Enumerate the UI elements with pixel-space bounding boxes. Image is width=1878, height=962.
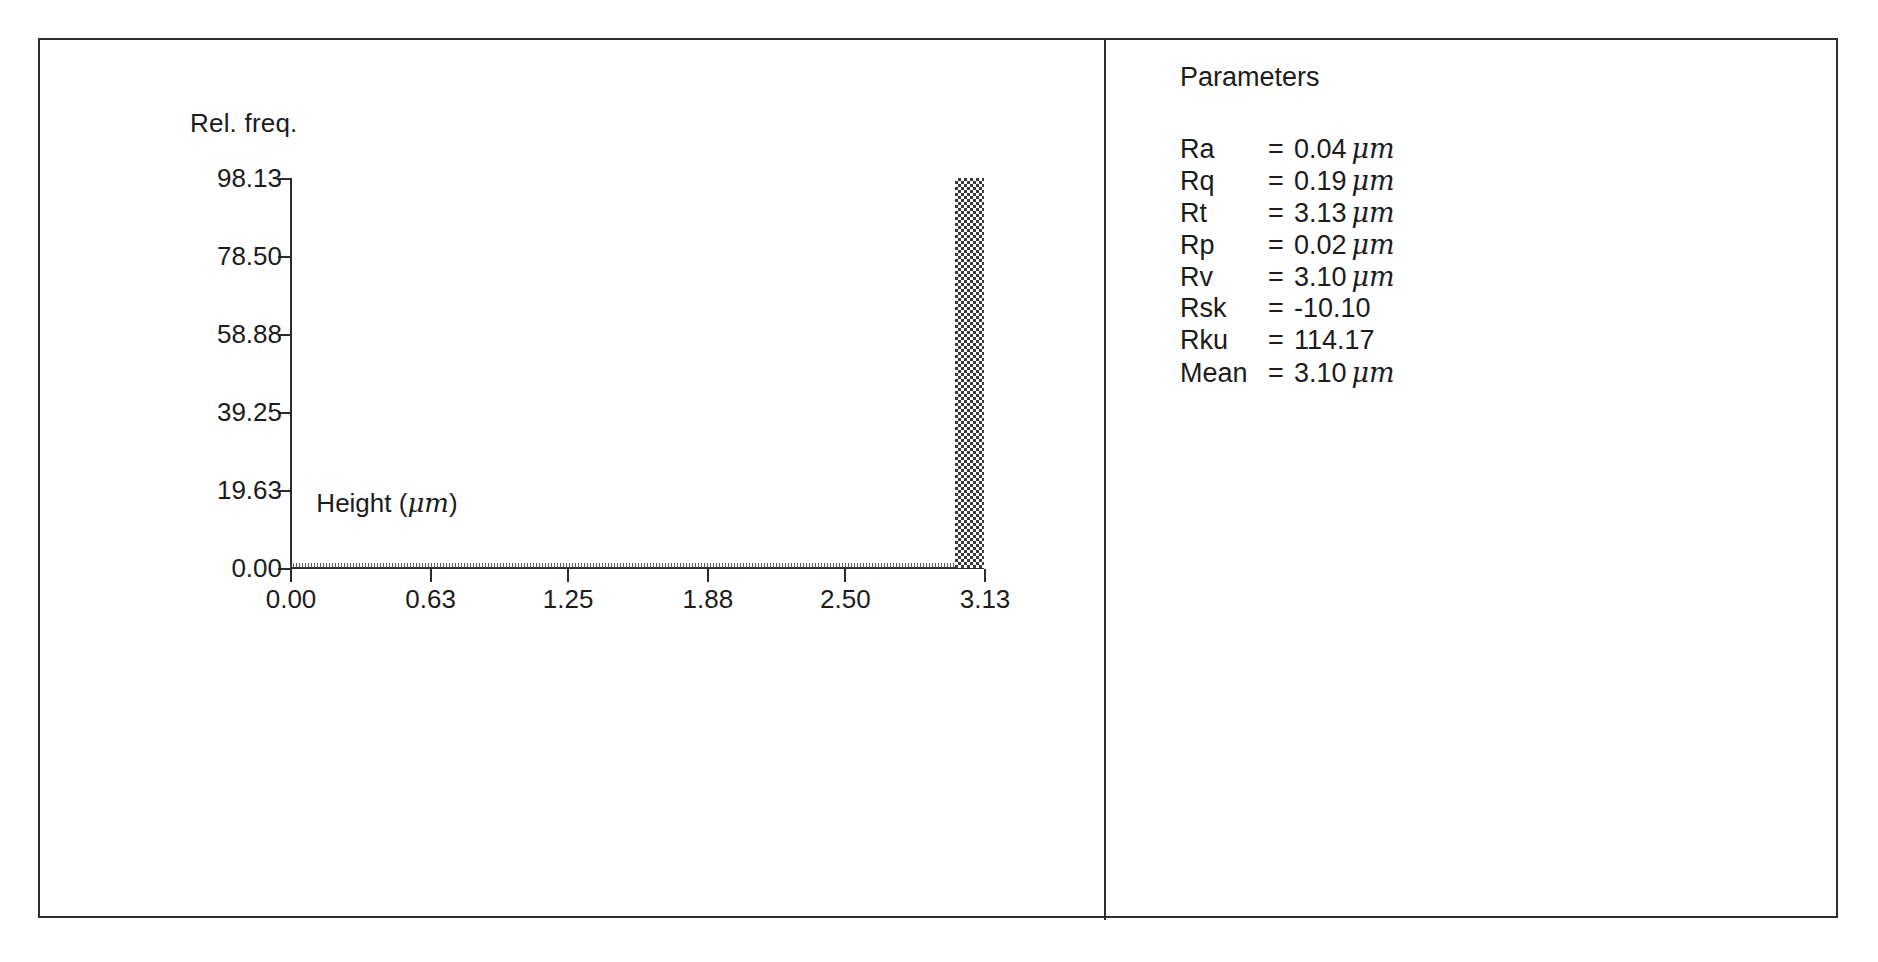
y-tick-label: 58.88 [217,319,282,350]
x-tick-mark [707,569,709,582]
parameter-unit: μm [1352,261,1395,292]
x-tick-mark [567,569,569,582]
y-axis-label: Rel. freq. [190,108,298,139]
x-tick-mark [290,569,292,582]
y-tick-label: 78.50 [217,241,282,272]
parameter-equals-sign: = [1268,134,1294,165]
x-axis-label-unit-open: ( [392,488,408,518]
parameter-name: Rp [1180,230,1268,261]
x-tick-label: 3.13 [960,584,1011,615]
x-axis-label-unit: μm [407,488,449,518]
x-tick-label: 1.88 [683,584,734,615]
x-tick-label: 0.63 [405,584,456,615]
parameter-name: Rq [1180,166,1268,197]
parameter-name: Ra [1180,134,1268,165]
parameter-equals-sign: = [1268,166,1294,197]
parameter-row: Rp=0.02μm [1180,229,1395,261]
parameter-unit: μm [1352,197,1395,228]
parameter-row: Rv=3.10μm [1180,261,1395,293]
parameter-unit: μm [1352,165,1395,196]
parameter-row: Rq=0.19μm [1180,165,1395,197]
parameter-row: Rsk=-10.10 [1180,293,1395,325]
parameter-value: 3.10 [1294,358,1347,389]
x-axis-label-unit-close: ) [449,488,458,518]
parameter-unit: μm [1352,357,1395,388]
parameter-value: 0.04 [1294,134,1347,165]
parameter-row: Ra=0.04μm [1180,133,1395,165]
y-tick-label: 39.25 [217,397,282,428]
parameters-list: Ra=0.04μmRq=0.19μmRt=3.13μmRp=0.02μmRv=3… [1180,133,1395,389]
parameter-value: 3.10 [1294,262,1347,293]
y-tick-label: 0.00 [231,553,282,584]
baseline-data-dither [290,563,984,568]
parameters-panel: Parameters Ra=0.04μmRq=0.19μmRt=3.13μmRp… [1106,40,1840,920]
x-tick-label: 1.25 [543,584,594,615]
parameter-name: Rsk [1180,293,1268,324]
parameter-value: 3.13 [1294,198,1347,229]
parameter-row: Rt=3.13μm [1180,197,1395,229]
parameter-value: 0.02 [1294,230,1347,261]
x-tick-label: 2.50 [820,584,871,615]
x-tick-label: 0.00 [266,584,317,615]
parameter-name: Mean [1180,358,1268,389]
figure-frame: Rel. freq. 0.0019.6339.2558.8878.5098.13… [38,38,1838,918]
histogram-bar [955,178,984,568]
parameter-value: -10.10 [1294,293,1371,324]
histogram-chart-panel: Rel. freq. 0.0019.6339.2558.8878.5098.13… [40,40,1104,920]
parameters-title: Parameters [1180,62,1320,93]
parameter-unit: μm [1352,133,1395,164]
parameter-equals-sign: = [1268,293,1294,324]
parameter-value: 114.17 [1294,325,1375,356]
parameter-row: Rku=114.17 [1180,325,1395,357]
parameter-row: Mean=3.10μm [1180,357,1395,389]
y-tick-label: 98.13 [217,163,282,194]
parameter-name: Rt [1180,198,1268,229]
parameter-name: Rku [1180,325,1268,356]
x-axis-label-text: Height [316,488,391,518]
x-axis-label: Height (μm) [40,488,734,519]
x-tick-mark [844,569,846,582]
parameter-value: 0.19 [1294,166,1347,197]
x-tick-mark [984,569,986,582]
parameter-name: Rv [1180,262,1268,293]
parameter-equals-sign: = [1268,230,1294,261]
parameter-equals-sign: = [1268,262,1294,293]
parameter-equals-sign: = [1268,198,1294,229]
parameter-unit: μm [1352,229,1395,260]
parameter-equals-sign: = [1268,358,1294,389]
parameter-equals-sign: = [1268,325,1294,356]
x-tick-mark [430,569,432,582]
